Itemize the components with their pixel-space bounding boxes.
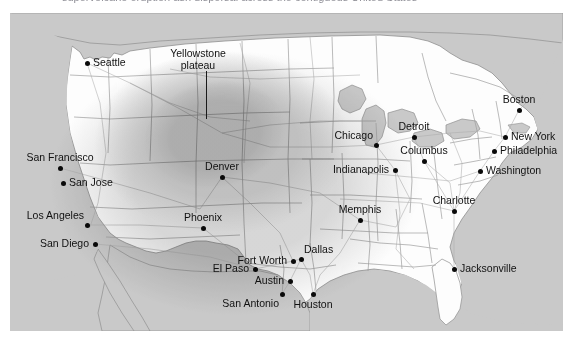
city-label: Los Angeles bbox=[27, 210, 84, 221]
city-dot bbox=[61, 181, 66, 186]
city-dot bbox=[311, 292, 316, 297]
clipped-caption-text: supervolcano eruption ash dispersal acro… bbox=[62, 0, 417, 3]
city-label: Memphis bbox=[339, 204, 382, 215]
city-label: Houston bbox=[293, 299, 332, 310]
yellowstone-annotation-line1: Yellowstone bbox=[150, 47, 246, 59]
city-dot bbox=[452, 267, 457, 272]
city-dot bbox=[478, 169, 483, 174]
city-dot bbox=[201, 226, 206, 231]
city-dot bbox=[58, 166, 63, 171]
city-label: Columbus bbox=[400, 145, 447, 156]
city-dot bbox=[503, 135, 508, 140]
city-label: San Jose bbox=[69, 177, 113, 188]
city-dot bbox=[299, 257, 304, 262]
city-dot bbox=[393, 168, 398, 173]
city-label: San Diego bbox=[40, 238, 89, 249]
city-dot bbox=[492, 149, 497, 154]
city-label: New York bbox=[511, 131, 555, 142]
yellowstone-annotation-line2: plateau bbox=[150, 59, 246, 71]
city-label: San Antonio bbox=[222, 298, 279, 309]
city-dot bbox=[220, 175, 225, 180]
yellowstone-annotation: Yellowstone plateau bbox=[150, 47, 246, 71]
clipped-caption-strip: supervolcano eruption ash dispersal acro… bbox=[0, 0, 572, 6]
city-label: Chicago bbox=[334, 130, 373, 141]
city-dot bbox=[374, 143, 379, 148]
city-dot bbox=[85, 61, 90, 66]
city-dot bbox=[412, 135, 417, 140]
city-label: Indianapolis bbox=[333, 164, 389, 175]
city-dot bbox=[291, 259, 296, 264]
city-dot bbox=[517, 108, 522, 113]
city-label: Phoenix bbox=[184, 212, 222, 223]
city-dot bbox=[253, 267, 258, 272]
us-ashfall-hazard-map: Yellowstone plateau SeattleSan Francisco… bbox=[10, 13, 563, 331]
city-label: Philadelphia bbox=[500, 145, 557, 156]
city-label: Dallas bbox=[304, 244, 333, 255]
city-label: Jacksonville bbox=[460, 263, 517, 274]
yellowstone-leader-line bbox=[206, 71, 207, 119]
city-dot bbox=[422, 159, 427, 164]
city-label: Seattle bbox=[93, 57, 126, 68]
city-dot bbox=[93, 242, 98, 247]
city-label: Austin bbox=[255, 275, 284, 286]
city-label: San Francisco bbox=[26, 152, 93, 163]
figure-canvas: supervolcano eruption ash dispersal acro… bbox=[0, 0, 572, 345]
city-label: Charlotte bbox=[433, 195, 476, 206]
city-dot bbox=[452, 209, 457, 214]
city-dot bbox=[280, 292, 285, 297]
city-dot bbox=[288, 279, 293, 284]
city-label: Detroit bbox=[399, 121, 430, 132]
city-dot bbox=[358, 218, 363, 223]
city-label: Fort Worth bbox=[238, 255, 287, 266]
city-label: Washington bbox=[486, 165, 541, 176]
city-label: Denver bbox=[205, 161, 239, 172]
city-dot bbox=[85, 223, 90, 228]
city-label: Boston bbox=[503, 94, 536, 105]
